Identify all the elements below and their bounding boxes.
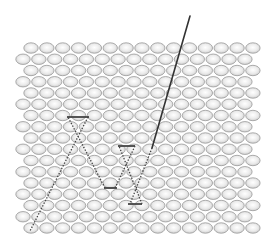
atom <box>63 77 77 87</box>
atom <box>198 88 212 98</box>
atom <box>32 99 46 109</box>
atom <box>166 110 180 120</box>
atom <box>95 54 109 64</box>
atom <box>182 43 196 53</box>
atom <box>135 65 149 75</box>
atom <box>87 110 101 120</box>
atom <box>63 189 77 199</box>
atom <box>166 178 180 188</box>
atom <box>166 43 180 53</box>
atom <box>190 122 204 132</box>
atom <box>222 54 236 64</box>
atom <box>24 223 38 233</box>
atom <box>182 155 196 165</box>
atom <box>32 122 46 132</box>
atom <box>48 189 62 199</box>
atom <box>24 200 38 210</box>
atom <box>63 212 77 222</box>
atom <box>230 133 244 143</box>
atom <box>238 122 252 132</box>
atom <box>111 122 125 132</box>
atom <box>214 110 228 120</box>
atom <box>246 133 260 143</box>
atom <box>103 43 117 53</box>
atom <box>238 54 252 64</box>
atom <box>32 167 46 177</box>
atom <box>182 88 196 98</box>
atom <box>214 65 228 75</box>
atom <box>111 77 125 87</box>
atom <box>16 77 30 87</box>
atom <box>24 133 38 143</box>
atom <box>230 155 244 165</box>
atom <box>246 88 260 98</box>
atom <box>151 65 165 75</box>
atom <box>111 54 125 64</box>
atom <box>71 43 85 53</box>
atom <box>95 122 109 132</box>
atom <box>16 212 30 222</box>
atom <box>32 212 46 222</box>
atom <box>87 178 101 188</box>
atom <box>174 122 188 132</box>
atom <box>135 110 149 120</box>
atom <box>79 189 93 199</box>
atom <box>158 122 172 132</box>
atom <box>79 167 93 177</box>
atom <box>79 212 93 222</box>
atom <box>238 212 252 222</box>
atom <box>56 223 70 233</box>
atom <box>190 144 204 154</box>
atom <box>119 43 133 53</box>
atom <box>222 122 236 132</box>
atom <box>63 144 77 154</box>
atom <box>206 167 220 177</box>
atom <box>238 167 252 177</box>
atom <box>206 212 220 222</box>
atom <box>246 110 260 120</box>
atom <box>166 155 180 165</box>
atom <box>127 77 141 87</box>
atom <box>32 189 46 199</box>
atom <box>198 223 212 233</box>
atom <box>190 99 204 109</box>
atom <box>166 133 180 143</box>
atom <box>16 99 30 109</box>
atom <box>190 167 204 177</box>
atom <box>48 212 62 222</box>
atom <box>182 178 196 188</box>
atom <box>230 65 244 75</box>
atom <box>119 88 133 98</box>
atom <box>151 88 165 98</box>
atom <box>87 200 101 210</box>
atom <box>71 110 85 120</box>
atom <box>158 54 172 64</box>
atom <box>230 88 244 98</box>
atom <box>151 200 165 210</box>
atom <box>151 133 165 143</box>
atom <box>16 144 30 154</box>
atom <box>214 200 228 210</box>
atom <box>198 65 212 75</box>
atom <box>182 223 196 233</box>
atom <box>246 178 260 188</box>
atom <box>246 43 260 53</box>
atom <box>95 189 109 199</box>
atom <box>166 223 180 233</box>
atom <box>71 65 85 75</box>
atom <box>182 65 196 75</box>
lattice-svg <box>0 0 277 245</box>
atom <box>238 144 252 154</box>
atom <box>222 167 236 177</box>
atom <box>103 133 117 143</box>
atom <box>71 155 85 165</box>
atom <box>214 133 228 143</box>
atom <box>127 167 141 177</box>
atom <box>214 88 228 98</box>
atom <box>206 144 220 154</box>
atom <box>143 144 157 154</box>
atom <box>206 122 220 132</box>
atom <box>143 189 157 199</box>
atom <box>206 99 220 109</box>
atom <box>16 54 30 64</box>
